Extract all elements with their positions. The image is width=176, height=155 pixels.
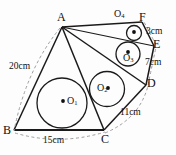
center-dot-O1 <box>61 99 65 103</box>
circle-center-label-O1: O1 <box>67 96 77 107</box>
point-label-A: A <box>57 11 66 23</box>
circle-center-label-O3: O3 <box>123 53 133 64</box>
circle-center-label-O2: O2 <box>97 83 107 94</box>
circle-O1 <box>37 78 87 128</box>
dimension-label-DE: 7cm <box>145 58 161 68</box>
point-label-D: D <box>147 77 156 89</box>
circle-center-label-O4: O4 <box>114 9 124 20</box>
point-label-E: E <box>153 38 160 50</box>
point-label-F: F <box>139 11 146 23</box>
dimension-label-CD: 11cm <box>120 108 141 118</box>
dimension-label-EF: 3cm <box>146 27 162 37</box>
dimension-label-BC: 15cm <box>43 136 64 146</box>
dimension-label-AB: 20cm <box>9 62 30 72</box>
geometry-figure: A B C D E F O1 O2 O3 O4 20cm 15cm 11cm 7… <box>0 0 176 155</box>
point-label-C: C <box>101 133 109 145</box>
dimension-arcs <box>14 22 156 139</box>
center-dot-O4 <box>132 30 136 34</box>
point-label-B: B <box>3 124 11 136</box>
